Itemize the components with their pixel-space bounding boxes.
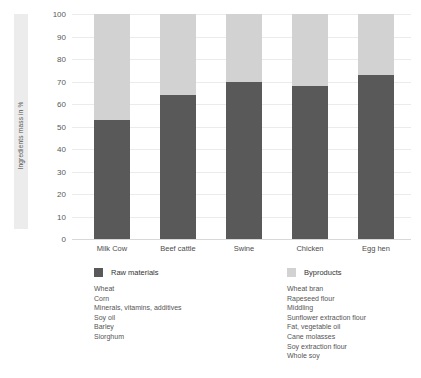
y-tick-label: 30 [44, 167, 66, 176]
bar-segment-raw-materials[interactable] [292, 86, 328, 239]
list-item: Soy extraction flour [287, 342, 414, 352]
chart-legend: Raw materials Wheat Corn Minerals, vitam… [94, 268, 414, 361]
x-tick-label: Milk Cow [97, 244, 127, 253]
list-item: Sunflower extraction flour [287, 313, 414, 323]
bar-group-swine[interactable]: Swine [226, 14, 262, 239]
y-tick-label: 90 [44, 32, 66, 41]
bar-group-egg-hen[interactable]: Egg hen [358, 14, 394, 239]
list-item: Corn [94, 294, 221, 304]
bar-stack [160, 14, 196, 239]
list-item: Cane molasses [287, 332, 414, 342]
bar-group-beef-cattle[interactable]: Beef cattle [160, 14, 196, 239]
legend-entry-raw-materials[interactable]: Raw materials [94, 268, 221, 277]
y-tick-label: 10 [44, 212, 66, 221]
x-tick-label: Chicken [296, 244, 323, 253]
legend-column-raw-materials: Raw materials Wheat Corn Minerals, vitam… [94, 268, 221, 361]
y-tick-label: 80 [44, 55, 66, 64]
legend-title: Byproducts [304, 268, 342, 277]
y-tick-label: 50 [44, 122, 66, 131]
bar-segment-byproducts[interactable] [160, 14, 196, 95]
y-tick-label: 70 [44, 77, 66, 86]
bar-segment-byproducts[interactable] [292, 14, 328, 86]
bar-stack [292, 14, 328, 239]
list-item: Whole soy [287, 351, 414, 361]
x-tick-label: Egg hen [362, 244, 390, 253]
x-tick-label: Beef cattle [160, 244, 195, 253]
gridline-0 [72, 239, 411, 240]
bar-group-chicken[interactable]: Chicken [292, 14, 328, 239]
legend-item-list-raw-materials: Wheat Corn Minerals, vitamins, additives… [94, 284, 221, 342]
list-item: Minerals, vitamins, additives [94, 303, 221, 313]
bar-segment-byproducts[interactable] [226, 14, 262, 82]
legend-item-list-byproducts: Wheat bran Rapeseed flour Middling Sunfl… [287, 284, 414, 361]
bar-stack [94, 14, 130, 239]
list-item: Soy oil [94, 313, 221, 323]
chart-plot-area: 100 90 80 70 60 50 40 30 20 10 0 Milk Co… [72, 14, 411, 239]
list-item: Wheat bran [287, 284, 414, 294]
legend-entry-byproducts[interactable]: Byproducts [287, 268, 414, 277]
y-tick-label: 100 [44, 10, 66, 19]
y-tick-label: 40 [44, 145, 66, 154]
bar-segment-raw-materials[interactable] [226, 82, 262, 240]
legend-column-byproducts: Byproducts Wheat bran Rapeseed flour Mid… [287, 268, 414, 361]
bar-segment-byproducts[interactable] [358, 14, 394, 75]
list-item: Middling [287, 303, 414, 313]
list-item: Rapeseed flour [287, 294, 414, 304]
list-item: Wheat [94, 284, 221, 294]
list-item: Siorghum [94, 332, 221, 342]
legend-title: Raw materials [111, 268, 159, 277]
legend-swatch-icon [287, 268, 296, 277]
y-tick-label: 0 [44, 235, 66, 244]
legend-swatch-icon [94, 268, 103, 277]
bar-segment-raw-materials[interactable] [94, 120, 130, 239]
list-item: Fat, vegetable oil [287, 322, 414, 332]
list-item: Barley [94, 322, 221, 332]
bar-segment-byproducts[interactable] [94, 14, 130, 120]
bar-stack [358, 14, 394, 239]
y-tick-label: 60 [44, 100, 66, 109]
x-tick-label: Swine [234, 244, 254, 253]
bar-group-milk-cow[interactable]: Milk Cow [94, 14, 130, 239]
y-axis-title: Ingredients mass in % [14, 28, 28, 243]
bar-stack [226, 14, 262, 239]
y-tick-label: 20 [44, 190, 66, 199]
bar-segment-raw-materials[interactable] [160, 95, 196, 239]
bar-segment-raw-materials[interactable] [358, 75, 394, 239]
